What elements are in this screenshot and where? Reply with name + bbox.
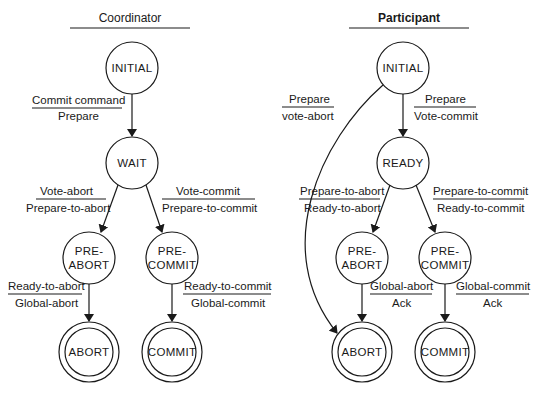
participant-t3-input: Prepare-to-abort [300,184,384,198]
participant-preabort-label-1: PRE- [332,244,392,258]
coordinator-t3-input: Vote-commit [176,184,240,198]
participant-t6-output: Ack [483,296,502,310]
coordinator-t1-output: Prepare [58,109,99,123]
coordinator-t4-output: Global-abort [15,296,78,310]
coordinator-t5-input: Ready-to-commit [184,279,272,293]
coordinator-title: Coordinator [70,11,190,25]
participant-t2-input: Prepare [425,92,466,106]
coordinator-t2-input: Vote-abort [40,184,93,198]
coordinator-precommit-label-2: COMMIT [142,258,202,272]
participant-title: Participant [349,11,469,25]
coordinator-preabort-label-1: PRE- [59,244,119,258]
participant-t4-output: Ready-to-commit [437,201,525,215]
coordinator-preabort-label-2: ABORT [59,258,119,272]
participant-t1-output: vote-abort [282,109,334,123]
participant-t1-input: Prepare [289,92,330,106]
participant-t2-output: Vote-commit [414,109,478,123]
participant-preabort-label-2: ABORT [332,258,392,272]
participant-t6-input: Global-commit [456,279,530,293]
coordinator-t1-input: Commit command [32,93,125,107]
participant-t5-output: Ack [392,296,411,310]
coordinator-t5-output: Global-commit [191,296,265,310]
coordinator-t2-output: Prepare-to-abort [26,201,110,215]
coordinator-initial-label: INITIAL [102,61,162,75]
participant-t4-input: Prepare-to-commit [433,184,528,198]
participant-initial-label: INITIAL [373,61,433,75]
coordinator-t3-output: Prepare-to-commit [162,201,257,215]
participant-ready-label: READY [373,156,433,170]
participant-t3-output: Ready-to-abort [304,201,381,215]
coordinator-commit-label: COMMIT [142,345,202,359]
coordinator-abort-label: ABORT [59,345,119,359]
participant-precommit-label-2: COMMIT [415,258,475,272]
participant-t5-input: Global-abort [370,279,433,293]
participant-commit-label: COMMIT [415,345,475,359]
coordinator-wait-label: WAIT [102,156,162,170]
participant-abort-label: ABORT [332,345,392,359]
coordinator-precommit-label-1: PRE- [142,244,202,258]
participant-precommit-label-1: PRE- [415,244,475,258]
coordinator-t4-input: Ready-to-abort [8,279,85,293]
